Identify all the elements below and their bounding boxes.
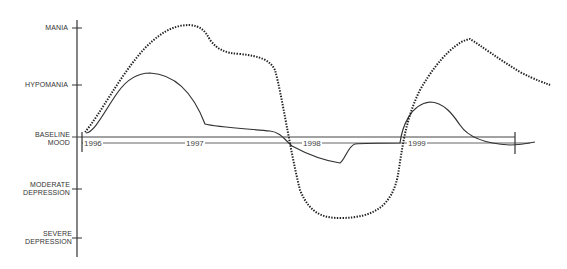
label-moderate-line1: MODERATE (10, 181, 70, 189)
label-severe-depression: SEVERE DEPRESSION (10, 230, 72, 246)
label-hypomania: HYPOMANIA (10, 81, 68, 89)
year-1996: 1996 (83, 139, 103, 148)
year-1998: 1998 (302, 139, 322, 148)
label-baseline-line1: BASELINE (10, 131, 70, 139)
label-baseline-line2: MOOD (10, 139, 70, 147)
year-1997: 1997 (185, 139, 205, 148)
label-mania: MANIA (30, 24, 68, 32)
dotted-line-series (85, 25, 550, 218)
label-severe-line1: SEVERE (10, 230, 72, 238)
label-baseline: BASELINE MOOD (10, 131, 70, 147)
mood-chart (0, 0, 567, 269)
solid-line-series (86, 73, 535, 163)
year-1999: 1999 (407, 139, 427, 148)
label-moderate-depression: MODERATE DEPRESSION (10, 181, 70, 197)
label-severe-line2: DEPRESSION (10, 238, 72, 246)
label-moderate-line2: DEPRESSION (10, 189, 70, 197)
